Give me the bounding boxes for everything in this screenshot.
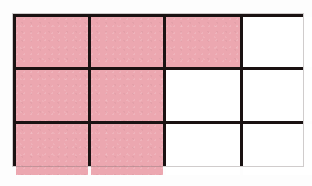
grid-cell-r1-c1[interactable] xyxy=(16,17,88,67)
figure-canvas xyxy=(0,0,312,186)
grid-cell-r3-c1[interactable] xyxy=(16,124,88,175)
grid-cell-r3-c2[interactable] xyxy=(91,124,163,175)
grid-cell-r1-c4[interactable] xyxy=(243,17,312,67)
grid-cell-r1-c3[interactable] xyxy=(166,17,240,67)
grid-cell-r3-c4[interactable] xyxy=(243,124,312,175)
grid-cell-r1-c2[interactable] xyxy=(91,17,163,67)
area-model-grid xyxy=(13,14,303,166)
grid-cell-r2-c3[interactable] xyxy=(166,70,240,121)
grid-cell-r2-c2[interactable] xyxy=(91,70,163,121)
grid-cell-r3-c3[interactable] xyxy=(166,124,240,175)
grid-cell-r2-c4[interactable] xyxy=(243,70,312,121)
grid-cell-r2-c1[interactable] xyxy=(16,70,88,121)
